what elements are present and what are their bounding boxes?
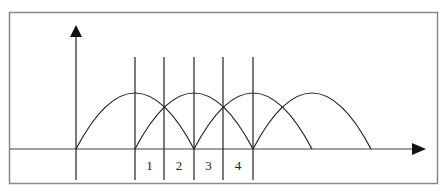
interval-label-4: 4 — [235, 158, 242, 173]
x-axis-arrow-icon — [412, 143, 426, 155]
interval-label-3: 3 — [205, 158, 212, 173]
interval-label-2: 2 — [176, 158, 183, 173]
arch-4 — [253, 93, 371, 149]
diagram: 1 2 3 4 — [0, 0, 445, 190]
y-axis-arrow-icon — [70, 25, 82, 37]
interval-label-1: 1 — [146, 158, 153, 173]
